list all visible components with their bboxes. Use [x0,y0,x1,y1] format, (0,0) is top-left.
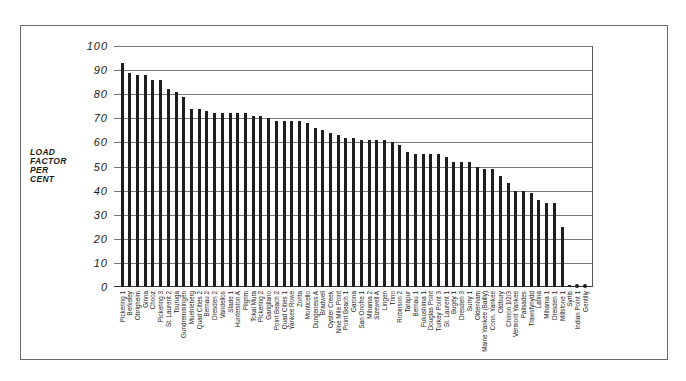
data-bar [329,133,332,287]
x-tick-label: Indian Point 1 [574,291,581,330]
x-tick-label: Vermont Yankee [512,291,519,337]
y-tick-label: 20 [68,233,108,245]
y-tick-label: 80 [68,88,108,100]
x-tick-label: Mihama 2 [366,291,373,319]
data-bar [360,140,363,287]
gridline [114,94,592,95]
y-tick-label: 40 [68,185,108,197]
data-bar [190,109,193,287]
x-tick-label: Mihama 1 [543,291,550,319]
y-tick-label: 60 [68,136,108,148]
plot-area [114,46,593,287]
y-tick-label: 0 [68,281,108,293]
data-bar [414,154,417,287]
data-bar [398,145,401,287]
x-tick-label: Hunterston A [234,291,241,327]
x-tick-label: Garona [350,291,357,312]
data-bar [491,169,494,287]
x-tick-label: Obrigheim [134,291,141,320]
gridline [114,118,592,119]
gridline [114,46,592,47]
x-tick-label: Latina [535,291,542,308]
x-tick-label: Turkey Point 3 [435,291,442,331]
data-bar [229,113,232,287]
data-bar [182,97,185,287]
x-tick-label: Dresden 1 [551,291,558,320]
x-tick-label: Pilgrim [242,291,249,310]
data-bar [244,113,247,287]
data-bar [144,75,147,287]
x-tick-label: Chooz [149,291,156,309]
y-axis-label: LOAD FACTOR PER CENT [30,148,67,184]
data-bar [267,118,270,287]
data-bar [321,130,324,287]
y-tick-label: 70 [68,112,108,124]
data-bar [514,191,517,287]
data-bar [437,154,440,287]
x-tick-label: Ginna [142,291,149,308]
x-tick-label: Yankee Rowe [288,291,295,330]
x-tick-label: Palisades [520,291,527,318]
x-tick-label: Dresden 2 [211,291,218,320]
x-tick-label: St. Laurent 2 [165,291,172,327]
y-tick-label: 50 [68,161,108,173]
x-tick-label: Pickering 1 [119,291,126,322]
x-tick-label: Gentilly [582,291,589,312]
x-tick-label: Chinon 1/2/3 [505,291,512,327]
data-bar [167,89,170,287]
data-bar [275,121,278,287]
y-tick-label: 30 [68,209,108,221]
data-bar [522,191,525,287]
data-bar [429,154,432,287]
x-tick-label: Lingen [381,291,388,310]
data-bar [159,80,162,287]
data-bar [468,162,471,287]
data-bar [306,123,309,287]
y-axis-label-line: CENT [30,175,67,184]
x-tick-label: Bugey 1 [450,291,457,314]
x-tick-label: Conn. Yankee [489,291,496,330]
x-tick-label: Trino [389,291,396,305]
x-tick-label: Vandellos [219,291,226,318]
x-tick-label: Tarapur [404,291,411,312]
data-bar [545,203,548,287]
data-bar [375,140,378,287]
x-tick-label: Pickering 3 [157,291,164,322]
data-bar [507,183,510,287]
data-bar [406,152,409,287]
x-tick-label: Garigliano [265,291,272,320]
x-tick-label: Bernau 1 [412,291,419,317]
x-tick-label: Surry 1 [466,291,473,311]
data-bar [530,193,533,287]
data-bar [198,109,201,287]
data-bar [175,92,178,287]
x-tick-label: Point Beach 2 [273,291,280,330]
x-tick-label: Bradwell [319,291,326,315]
data-bar [483,169,486,287]
data-bar [236,113,239,287]
data-bar [537,200,540,287]
data-bar [452,162,455,287]
data-bar [205,111,208,287]
x-tick-label: Zorita [296,291,303,307]
x-tick-label: Quad Cities 1 [281,291,288,329]
y-tick-label: 100 [68,40,108,52]
data-bar [422,154,425,287]
x-tick-label: Syrtis [566,291,573,307]
data-bar [314,128,317,287]
x-tick-label: Point Beach 1 [342,291,349,330]
x-tick-label: Fukushima 1 [420,291,427,327]
x-tick-label: Oldbury [497,291,504,313]
x-tick-label: Oyster Creek [327,291,334,328]
gridline [114,70,592,71]
data-bar [221,113,224,287]
data-bar [290,121,293,287]
data-bar [128,73,131,287]
data-bar [383,140,386,287]
x-tick-label: St. Laurent 1 [443,291,450,327]
data-bar [460,162,463,287]
x-tick-label: Sizewell A [373,291,380,320]
data-bar [259,116,262,287]
data-bar [445,157,448,287]
data-bar [136,75,139,287]
